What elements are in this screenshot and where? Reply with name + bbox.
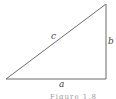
label-hypotenuse-c: c [51, 32, 56, 41]
figure-caption: Figure 1.8 [50, 94, 97, 99]
label-side-a: a [59, 80, 64, 89]
right-triangle [0, 0, 116, 99]
label-side-b: b [108, 37, 114, 46]
